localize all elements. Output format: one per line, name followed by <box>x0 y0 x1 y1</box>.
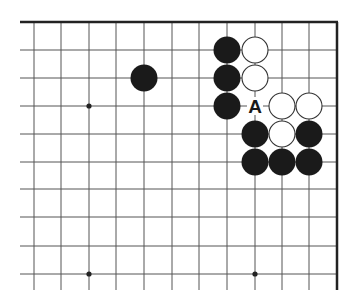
white-stone <box>242 65 268 91</box>
black-stone <box>214 93 241 120</box>
go-board-diagram: A <box>0 0 356 303</box>
black-stone <box>242 149 269 176</box>
white-stone <box>242 37 268 63</box>
white-stone <box>269 93 295 119</box>
black-stone <box>131 65 158 92</box>
black-stone <box>296 121 323 148</box>
go-board-svg: A <box>0 0 356 303</box>
black-stone <box>242 121 269 148</box>
black-stone <box>214 37 241 64</box>
white-stone <box>269 121 295 147</box>
point-label-a: A <box>248 96 262 117</box>
black-stone <box>214 65 241 92</box>
point-labels: A <box>247 96 263 117</box>
black-stone <box>269 149 296 176</box>
star-point <box>86 271 91 276</box>
star-point <box>252 271 257 276</box>
white-stone <box>296 93 322 119</box>
black-stone <box>296 149 323 176</box>
star-point <box>86 103 91 108</box>
